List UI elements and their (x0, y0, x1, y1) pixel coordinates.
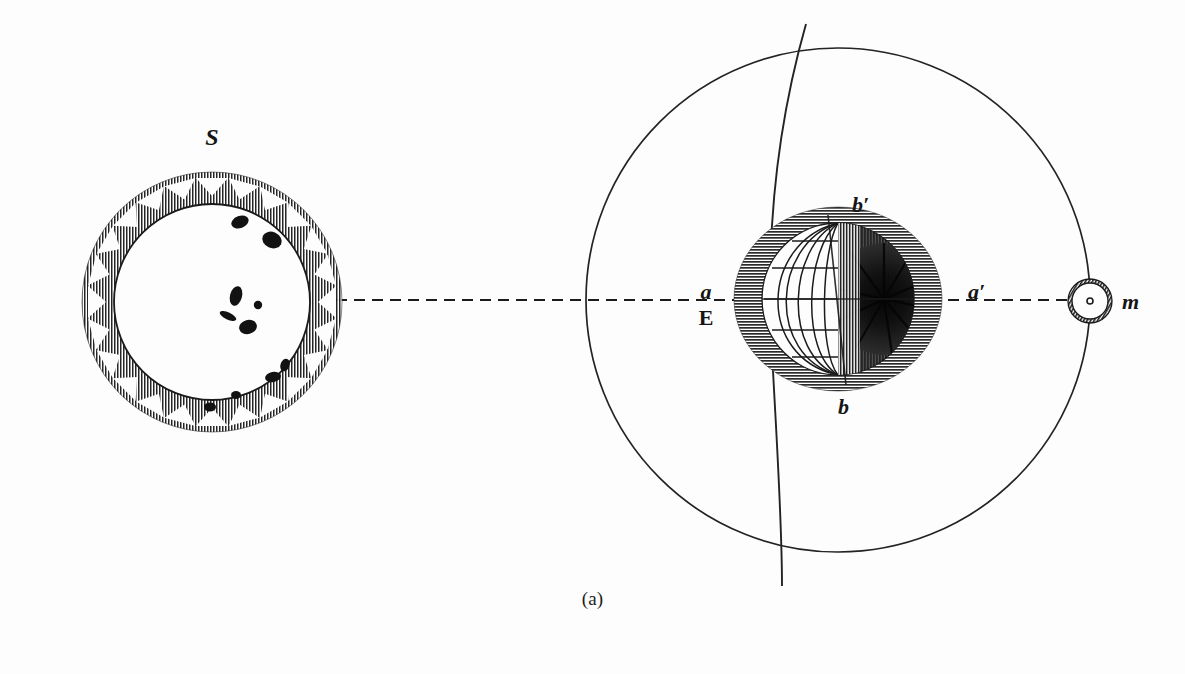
sunspot (231, 391, 241, 399)
eclipse-diagram-canvas: S (0, 0, 1185, 674)
figure-caption: (a) (0, 588, 1185, 610)
earth-pole-top-label: b′ (852, 192, 869, 217)
sun-label: S (205, 124, 218, 150)
earth-pole-bottom-label: b (838, 394, 849, 419)
earth-label: E (699, 305, 714, 330)
terminator-band (838, 215, 860, 385)
earth-far-point-label: a′ (968, 279, 985, 304)
earth-near-point-label: a (701, 279, 712, 304)
sunspot (254, 301, 262, 309)
moon-disc (1072, 283, 1108, 319)
eclipse-figure: S (0, 0, 1185, 674)
moon-label: m (1122, 289, 1139, 314)
sun-photosphere-disc (114, 204, 310, 400)
sunspot (204, 403, 216, 412)
